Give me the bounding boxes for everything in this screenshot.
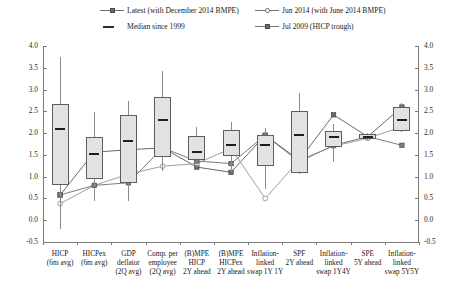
y-axis-tick — [415, 198, 418, 199]
y-axis-tick-label-right: 1.0 — [424, 173, 450, 181]
whisker-lower — [60, 185, 61, 229]
legend-item-median[interactable]: Median since 1999 — [100, 22, 185, 31]
median-marker — [397, 119, 407, 121]
y-axis-tick — [44, 220, 47, 221]
legend-label-latest: Latest (with December 2014 BMPE) — [127, 7, 239, 15]
y-axis-tick-label-right: 3.0 — [424, 86, 450, 94]
median-marker — [158, 119, 168, 121]
box-plot-box[interactable] — [86, 137, 103, 178]
y-axis-tick — [44, 155, 47, 156]
y-axis-tick-label-right: 2.5 — [424, 107, 450, 115]
y-axis-tick-label-left: 1.0 — [12, 173, 38, 181]
legend-label-jun-2014: Jun 2014 (with June 2014 BMPE) — [282, 7, 386, 15]
x-axis-tick — [419, 242, 420, 245]
x-axis-category-line: Inflation- — [381, 249, 423, 258]
whisker-upper — [162, 71, 163, 96]
median-marker — [55, 128, 65, 130]
legend-label-median: Median since 1999 — [127, 23, 185, 31]
y-axis-tick-label-left: 3.0 — [12, 86, 38, 94]
whisker-upper — [333, 124, 334, 132]
box-plot-box[interactable] — [52, 104, 69, 184]
y-axis-tick-label-left: 1.5 — [12, 151, 38, 159]
chart-legend: Latest (with December 2014 BMPE) Jun 201… — [0, 6, 462, 38]
median-marker — [294, 134, 304, 136]
y-axis-tick-label-left: 2.0 — [12, 129, 38, 137]
y-axis-tick — [415, 133, 418, 134]
whisker-upper — [231, 122, 232, 130]
legend-item-latest[interactable]: Latest (with December 2014 BMPE) — [100, 6, 239, 15]
whisker-upper — [128, 101, 129, 115]
x-axis-tick — [248, 242, 249, 245]
median-marker — [226, 144, 236, 146]
whisker-lower — [128, 183, 129, 201]
y-axis-tick-label-right: 1.5 — [424, 151, 450, 159]
x-axis-category-line: swap 5Y5Y — [381, 267, 423, 276]
whisker-lower — [265, 166, 266, 189]
box-plot-box[interactable] — [120, 115, 137, 183]
y-axis-tick — [415, 90, 418, 91]
legend-marker-median-icon — [100, 22, 124, 31]
x-axis-tick — [351, 242, 352, 245]
y-axis-tick-label-left: -0.5 — [12, 238, 38, 246]
box-plot-box[interactable] — [188, 136, 205, 160]
y-axis-tick — [44, 242, 47, 243]
legend-marker-jul-2009-icon — [255, 22, 279, 31]
y-axis-tick-label-right: 0.5 — [424, 194, 450, 202]
x-axis-tick — [316, 242, 317, 245]
box-plot-box[interactable] — [154, 97, 171, 158]
y-axis-tick — [415, 242, 418, 243]
box-plot-box[interactable] — [257, 135, 274, 165]
x-axis-tick — [146, 242, 147, 245]
y-axis-tick — [44, 111, 47, 112]
y-axis-tick-label-left: 3.5 — [12, 64, 38, 72]
legend-label-jul-2009: Jul 2009 (HICP trough) — [282, 23, 354, 31]
legend-item-jun-2014[interactable]: Jun 2014 (with June 2014 BMPE) — [255, 6, 386, 15]
y-axis-tick — [44, 177, 47, 178]
y-axis-tick — [415, 177, 418, 178]
box-plot-box[interactable] — [325, 131, 342, 147]
x-axis-tick — [43, 242, 44, 245]
y-axis-tick — [44, 198, 47, 199]
median-marker — [329, 136, 339, 138]
y-axis-tick-label-left: 0.0 — [12, 216, 38, 224]
y-axis-tick — [415, 220, 418, 221]
y-axis-tick — [44, 46, 47, 47]
y-axis-tick-label-right: 2.0 — [424, 129, 450, 137]
x-axis-category-label: Inflation-linkedswap 5Y5Y — [381, 249, 423, 277]
plot-area: 4.04.03.53.53.03.02.52.52.02.01.51.51.01… — [43, 46, 419, 242]
y-axis-tick-label-right: -0.5 — [424, 238, 450, 246]
whisker-lower — [299, 173, 300, 174]
whisker-lower — [401, 131, 402, 132]
x-axis — [43, 242, 419, 243]
x-axis-tick — [282, 242, 283, 245]
x-axis-category-line: linked — [381, 258, 423, 267]
y-axis-tick-label-right: 3.5 — [424, 64, 450, 72]
box-plot-chart: Latest (with December 2014 BMPE) Jun 201… — [0, 0, 462, 298]
series-marker[interactable] — [263, 196, 268, 201]
x-axis-tick — [77, 242, 78, 245]
series-marker[interactable] — [400, 143, 404, 147]
whisker-upper — [196, 127, 197, 136]
whisker-upper — [94, 112, 95, 137]
whisker-lower — [162, 157, 163, 171]
y-axis-tick — [415, 46, 418, 47]
x-axis-category-line: swap 1Y4Y — [312, 267, 354, 276]
y-axis-tick — [44, 68, 47, 69]
y-axis-tick — [415, 68, 418, 69]
whisker-lower — [333, 147, 334, 162]
series-marker[interactable] — [331, 113, 335, 117]
x-axis-labels: HICP(6m avg)HICPex(6m avg)GDPdeflator(2Q… — [43, 249, 419, 295]
legend-item-jul-2009[interactable]: Jul 2009 (HICP trough) — [255, 22, 354, 31]
whisker-upper — [60, 57, 61, 104]
whisker-upper — [299, 93, 300, 112]
y-axis-tick-label-left: 4.0 — [12, 42, 38, 50]
median-marker — [123, 140, 133, 142]
whisker-lower — [196, 160, 197, 167]
whisker-lower — [94, 179, 95, 201]
whisker-upper — [265, 128, 266, 135]
y-axis-tick — [44, 90, 47, 91]
whisker-lower — [367, 139, 368, 140]
median-marker — [363, 136, 373, 138]
box-plot-box[interactable] — [291, 111, 308, 173]
median-marker — [89, 153, 99, 155]
